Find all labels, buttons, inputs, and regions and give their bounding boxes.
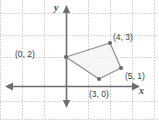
vertex-label-0-2: (0, 2) [15,50,35,59]
vertex-label-4-3: (4, 3) [113,33,133,42]
arrow-down-icon [63,100,70,108]
y-axis-label: y [54,3,58,13]
vertex-point-0-2 [64,55,68,59]
vertex-label-3-0: (3, 0) [89,90,109,99]
vertex-point-3-0 [97,77,101,81]
vertex-label-5-1: (5, 1) [125,72,145,81]
plot-canvas [0,0,159,120]
x-axis-label: x [139,86,144,96]
arrow-up-icon [63,5,70,13]
coordinate-plane-figure: y x (0, 2) (4, 3) (5, 1) (3, 0) [0,0,159,120]
arrow-left-icon [5,83,13,91]
quadrilateral-shape [66,43,121,79]
vertex-point-4-3 [108,41,112,45]
vertex-point-5-1 [119,66,123,70]
